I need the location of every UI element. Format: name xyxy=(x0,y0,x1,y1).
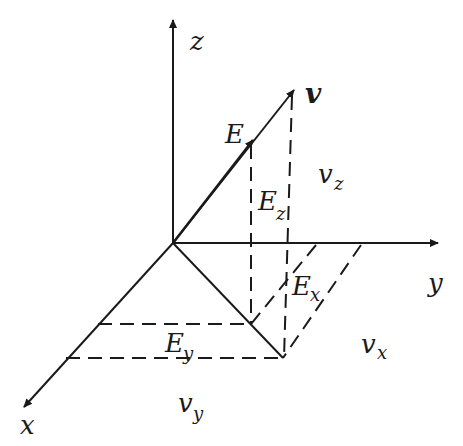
vx-base: v xyxy=(361,329,376,359)
label-vx: v x xyxy=(361,329,387,363)
v-vertical-drop xyxy=(284,96,292,358)
E-vector xyxy=(173,140,253,243)
x-axis-label: x xyxy=(20,410,35,440)
y-axis-label: y xyxy=(427,268,443,298)
Ex-base: E xyxy=(291,271,311,301)
label-vz: v z xyxy=(318,159,344,194)
Ez-base: E xyxy=(257,186,277,216)
v-xy-projection xyxy=(173,243,283,358)
Ex-sub: x xyxy=(310,284,320,305)
axes xyxy=(24,20,438,407)
Ey-base: E xyxy=(164,328,184,358)
dashed-construction xyxy=(66,96,361,358)
label-Ex: E x xyxy=(291,271,320,305)
vy-base: v xyxy=(178,388,193,418)
vx-sub: x xyxy=(377,342,387,363)
label-vy: v y xyxy=(178,388,204,424)
vy-sub: y xyxy=(192,403,204,424)
vz-base: v xyxy=(318,159,333,189)
vector-diagram: z y x v E v z E z E x v x E y v y xyxy=(0,0,463,446)
E-label: E xyxy=(224,119,244,149)
v-x-line xyxy=(283,245,361,358)
Ez-sub: z xyxy=(275,203,286,224)
vz-sub: z xyxy=(333,173,344,194)
label-Ez: E z xyxy=(257,186,286,224)
z-axis-label: z xyxy=(189,26,204,56)
Ey-sub: y xyxy=(182,343,194,364)
v-label: v xyxy=(305,77,322,110)
